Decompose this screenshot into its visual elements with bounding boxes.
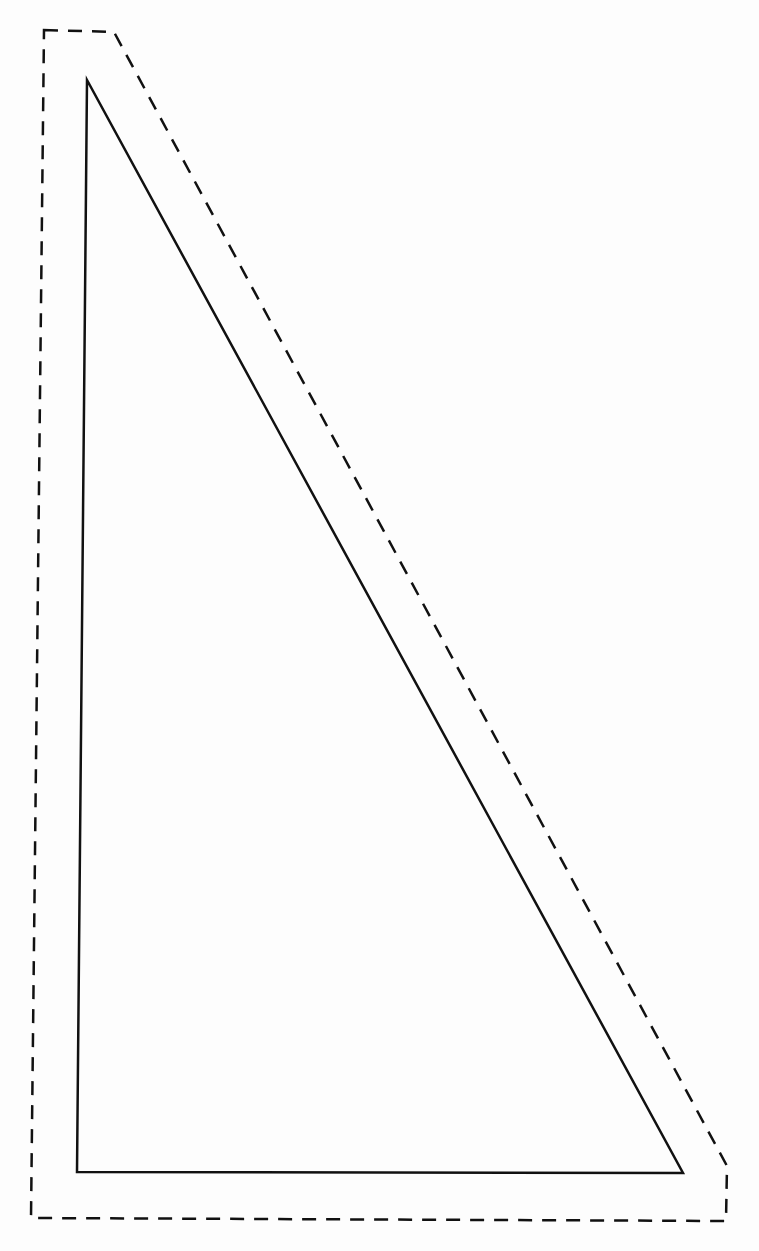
diagram-svg bbox=[0, 0, 759, 1251]
outer-dashed-outline bbox=[31, 30, 727, 1221]
inner-triangle bbox=[77, 80, 683, 1173]
diagram-canvas bbox=[0, 0, 759, 1251]
